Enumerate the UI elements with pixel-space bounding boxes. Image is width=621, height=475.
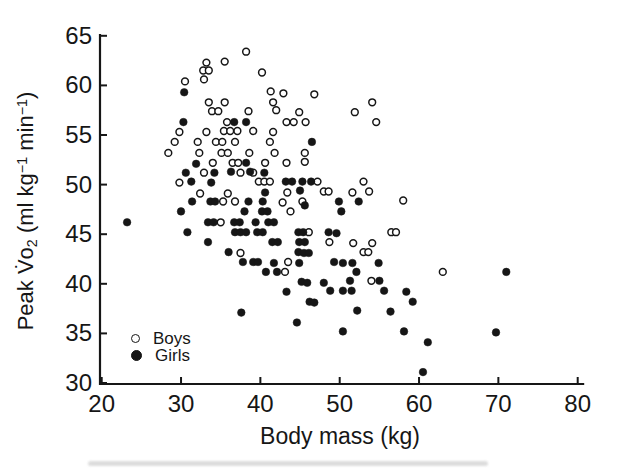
- girls-data-point: [353, 307, 361, 315]
- girls-data-point: [246, 168, 254, 176]
- boys-data-point: [197, 190, 204, 197]
- boys-data-point: [284, 189, 291, 196]
- girls-data-point: [211, 198, 219, 206]
- boys-data-point: [369, 240, 376, 247]
- boys-data-point: [243, 48, 250, 55]
- boys-data-point: [245, 108, 252, 115]
- girls-data-point: [339, 259, 347, 267]
- boys-data-point: [205, 67, 212, 74]
- girls-data-point: [295, 259, 303, 267]
- girls-data-point: [227, 168, 235, 176]
- girls-data-point: [301, 202, 309, 210]
- boys-data-point: [369, 99, 376, 106]
- girls-data-point: [299, 178, 307, 186]
- boys-data-point: [235, 159, 242, 166]
- boys-data-point: [176, 129, 183, 136]
- boys-data-point: [351, 109, 358, 116]
- boys-data-point: [194, 139, 201, 146]
- girls-data-point: [188, 198, 196, 206]
- girls-data-point: [177, 208, 185, 216]
- boys-data-point: [301, 150, 308, 157]
- boys-data-point: [232, 198, 239, 205]
- cropped-caption-artifact: [88, 461, 488, 466]
- boys-data-point: [171, 139, 178, 146]
- y-axis-title-exponent-1: −1: [14, 157, 30, 173]
- girls-data-point: [180, 118, 188, 126]
- x-tick-label: 20: [88, 390, 115, 417]
- girls-data-point: [211, 169, 219, 177]
- boys-data-point: [271, 150, 278, 157]
- girls-data-point: [293, 319, 301, 327]
- girls-data-point: [419, 368, 427, 376]
- boys-data-point: [350, 240, 357, 247]
- girls-data-point: [245, 198, 253, 206]
- girls-data-point: [400, 328, 408, 336]
- boys-data-point: [279, 199, 286, 206]
- legend-label-boys: Boys: [153, 330, 191, 347]
- boys-data-point: [203, 129, 210, 136]
- girls-data-point: [330, 258, 338, 266]
- girls-data-point: [261, 169, 269, 177]
- boys-data-point: [267, 88, 274, 95]
- boys-data-point: [224, 190, 231, 197]
- girls-data-point: [210, 219, 218, 227]
- boys-data-point: [349, 189, 356, 196]
- x-tick-label: 50: [326, 390, 353, 417]
- girls-data-point: [252, 219, 260, 227]
- girls-data-point: [376, 277, 384, 285]
- boys-data-point: [196, 150, 203, 157]
- girls-data-point: [270, 259, 278, 267]
- y-tick-label: 40: [65, 270, 92, 297]
- girls-data-point: [273, 268, 281, 276]
- girls-data-point: [259, 198, 267, 206]
- girls-data-point: [311, 299, 319, 307]
- legend-item-girls: Girls: [131, 347, 191, 364]
- girls-data-point: [307, 178, 315, 186]
- boys-data-point: [201, 169, 208, 176]
- boys-data-point: [237, 250, 244, 257]
- boys-data-point: [400, 197, 407, 204]
- boys-data-point: [311, 91, 318, 98]
- x-tick-label: 70: [485, 390, 512, 417]
- boys-data-point: [270, 129, 277, 136]
- boys-data-point: [205, 99, 212, 106]
- y-axis-title: Peak V̇o2 (ml kg−1 min−1): [13, 30, 43, 392]
- girls-data-point: [409, 298, 417, 306]
- boys-data-point: [296, 109, 303, 116]
- legend: Boys Girls: [131, 330, 191, 364]
- girls-data-point: [283, 288, 291, 296]
- girls-data-point: [254, 258, 262, 266]
- girls-data-point: [325, 228, 333, 236]
- boys-data-point: [232, 139, 239, 146]
- girls-data-point: [301, 238, 309, 246]
- boys-data-point: [215, 108, 222, 115]
- girls-data-point: [264, 208, 272, 216]
- girls-data-point: [182, 169, 190, 177]
- girls-data-point: [348, 287, 356, 295]
- x-tick-label: 30: [168, 390, 195, 417]
- boys-data-point: [301, 158, 308, 165]
- boys-data-point: [283, 119, 290, 126]
- girls-data-point: [242, 228, 250, 236]
- girls-data-point: [339, 287, 347, 295]
- boys-data-point: [219, 139, 226, 146]
- y-tick-label: 45: [65, 220, 92, 247]
- boys-data-point: [237, 169, 244, 176]
- boys-data-point: [287, 208, 294, 215]
- girls-data-point: [380, 287, 388, 295]
- boys-data-point: [217, 219, 224, 226]
- boys-data-point: [224, 119, 231, 126]
- boys-data-point: [262, 159, 269, 166]
- boys-data-point: [273, 107, 280, 114]
- boys-data-point: [368, 277, 375, 284]
- boys-data-point: [270, 99, 277, 106]
- boys-data-point: [282, 269, 289, 276]
- girls-data-point: [207, 179, 215, 187]
- boys-data-point: [267, 139, 274, 146]
- girls-data-point: [424, 339, 432, 347]
- filled-circle-icon: [131, 350, 142, 361]
- series-boys: [165, 48, 446, 284]
- girls-data-point: [236, 219, 244, 227]
- y-tick-label: 35: [65, 319, 92, 346]
- y-tick-label: 30: [65, 369, 92, 396]
